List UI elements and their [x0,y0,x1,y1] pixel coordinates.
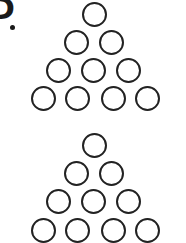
circle [99,30,124,55]
circle [65,218,90,243]
circle [46,58,71,83]
circle [135,86,160,111]
circle [101,218,126,243]
circle [64,30,89,55]
bottom-circle-pyramid [0,121,186,243]
circle [81,189,106,214]
circle [99,161,124,186]
circle [65,86,90,111]
circle [116,58,141,83]
circle [116,189,141,214]
circle [64,161,89,186]
circle [135,218,160,243]
circle [81,58,106,83]
circle [31,86,56,111]
circle [31,218,56,243]
circle [46,189,71,214]
circle [101,86,126,111]
circle [82,133,107,158]
top-circle-pyramid [0,0,186,121]
circle [82,2,107,27]
